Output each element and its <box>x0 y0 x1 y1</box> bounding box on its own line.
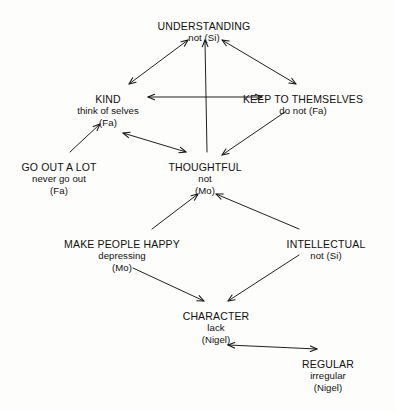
node-go-out-a-lot: GO OUT A LOTnever go out(Fa) <box>21 161 96 196</box>
node-keep-to-themselves: KEEP TO THEMSELVESdo not (Fa) <box>243 93 363 117</box>
edge-kind-to-understanding <box>129 40 188 84</box>
node-regular-line2: irregular <box>302 370 354 381</box>
node-character-line1: CHARACTER <box>183 310 250 322</box>
node-intellectual: INTELLECTUALnot (Si) <box>287 238 366 262</box>
node-go-out-a-lot-line1: GO OUT A LOT <box>21 161 96 173</box>
node-kind-line1: KIND <box>77 93 139 105</box>
node-intellectual-line1: INTELLECTUAL <box>287 238 366 250</box>
edge-keep-to-themselves-to-understanding <box>222 40 296 84</box>
node-keep-to-themselves-line1: KEEP TO THEMSELVES <box>243 93 363 105</box>
diagram-canvas: UNDERSTANDINGnot (Si)KINDthink of selves… <box>0 0 395 411</box>
node-thoughtful-line1: THOUGHTFUL <box>168 161 241 173</box>
edge-intellectual-to-thoughtful <box>216 194 299 229</box>
edge-keep-to-themselves-to-thoughtful <box>222 112 285 155</box>
node-character: CHARACTERlack(Nigel) <box>183 310 250 345</box>
node-thoughtful-line2: not <box>168 173 241 184</box>
node-intellectual-line2: not (Si) <box>287 250 366 261</box>
node-make-people-happy-line2: depressing <box>64 250 180 261</box>
edge-go-out-a-lot-to-kind <box>70 124 100 152</box>
node-make-people-happy: MAKE PEOPLE HAPPYdepressing(Mo) <box>64 238 180 273</box>
node-go-out-a-lot-line2: never go out <box>21 173 96 184</box>
edge-kind-to-thoughtful <box>123 132 186 153</box>
node-make-people-happy-line3: (Mo) <box>64 262 180 273</box>
node-regular-line3: (Nigel) <box>302 382 354 393</box>
node-understanding-line1: UNDERSTANDING <box>158 20 251 32</box>
node-character-line3: (Nigel) <box>183 334 250 345</box>
node-kind-line3: (Fa) <box>77 117 139 128</box>
node-kind-line2: think of selves <box>77 105 139 116</box>
node-character-line2: lack <box>183 322 250 333</box>
edge-intellectual-to-character <box>228 255 299 301</box>
node-make-people-happy-line1: MAKE PEOPLE HAPPY <box>64 238 180 250</box>
node-understanding: UNDERSTANDINGnot (Si) <box>158 20 251 44</box>
edge-thoughtful-to-understanding <box>202 40 208 152</box>
node-understanding-line2: not (Si) <box>158 32 251 43</box>
node-keep-to-themselves-line2: do not (Fa) <box>243 105 363 116</box>
node-regular-line1: REGULAR <box>302 358 354 370</box>
edge-layer <box>0 0 395 411</box>
node-kind: KINDthink of selves(Fa) <box>77 93 139 128</box>
edge-make-people-happy-to-thoughtful <box>152 194 198 229</box>
node-regular: REGULARirregular(Nigel) <box>302 358 354 393</box>
node-go-out-a-lot-line3: (Fa) <box>21 185 96 196</box>
node-thoughtful: THOUGHTFULnot(Mo) <box>168 161 241 196</box>
node-thoughtful-line3: (Mo) <box>168 185 241 196</box>
